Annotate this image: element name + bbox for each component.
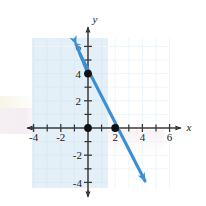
coordinate-plane: -4 -2 2 4 6 6 4 2 -2 -4 x y xyxy=(0,0,206,206)
x-axis-label: x xyxy=(186,121,192,133)
grid-lines xyxy=(34,38,170,188)
y-axis-label: y xyxy=(92,13,98,25)
x-tick-label: 2 xyxy=(112,131,118,143)
point-x-intercept xyxy=(111,124,119,132)
point-y-intercept xyxy=(84,70,92,78)
y-tick-label: 4 xyxy=(76,68,82,80)
y-tick-label: 2 xyxy=(76,95,82,107)
y-tick-label: -2 xyxy=(73,149,82,161)
plotted-line xyxy=(76,44,145,181)
x-tick-label: 6 xyxy=(167,131,173,143)
x-tick-label: -4 xyxy=(29,131,39,143)
x-tick-label: -2 xyxy=(56,131,65,143)
graph-figure: -4 -2 2 4 6 6 4 2 -2 -4 x y xyxy=(0,0,206,206)
axes xyxy=(27,27,181,197)
y-tick-label: -4 xyxy=(73,177,83,189)
x-tick-label: 4 xyxy=(140,131,146,143)
point-origin xyxy=(84,124,92,132)
